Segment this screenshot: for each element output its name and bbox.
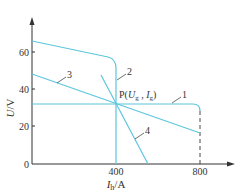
leader-3 <box>57 77 66 83</box>
x-tick-label-400: 400 <box>109 166 124 177</box>
leader-1 <box>172 97 181 103</box>
curve-labels: 1 2 3 4 <box>57 66 187 139</box>
x-axis-label: Ih/A <box>106 178 126 192</box>
leader-2 <box>117 74 126 80</box>
y-tick-label-60: 60 <box>19 47 29 58</box>
curve-2 <box>32 41 116 164</box>
curve-label-2: 2 <box>127 66 132 77</box>
operating-point-label: P(Ug , Ig) <box>119 89 156 102</box>
x-tick-label-800: 800 <box>193 166 208 177</box>
origin-label: 0 <box>24 159 29 170</box>
y-axis-label: U/V <box>4 98 16 117</box>
curve-label-1: 1 <box>182 89 187 100</box>
leader-4 <box>135 133 144 139</box>
y-tick-label-20: 20 <box>19 121 29 132</box>
y-tick-label-40: 40 <box>19 84 29 95</box>
volt-ampere-diagram: 20 40 60 0 400 800 U/V Ih/A 1 2 3 4 P(Ug… <box>0 0 247 192</box>
curve-label-3: 3 <box>67 69 72 80</box>
x-axis-arrow-icon <box>227 162 235 167</box>
curve-label-4: 4 <box>145 125 150 136</box>
y-axis-arrow-icon <box>30 17 35 25</box>
